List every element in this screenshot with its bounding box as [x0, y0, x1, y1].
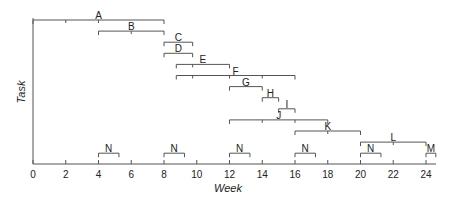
task-bar-n: N — [361, 143, 381, 157]
task-label: C — [175, 32, 182, 43]
task-bar-g: G — [230, 77, 263, 91]
x-tick-label: 14 — [257, 169, 269, 180]
task-bar-n: N — [295, 143, 315, 157]
axes: 024681012141618202224 Week Task — [15, 18, 436, 194]
task-label: H — [267, 88, 274, 99]
x-tick-label: 12 — [224, 169, 236, 180]
x-tick-label: 8 — [161, 169, 167, 180]
x-tick-label: 2 — [63, 169, 69, 180]
x-tick-label: 6 — [128, 169, 134, 180]
y-axis-title: Task — [15, 80, 27, 103]
x-ticks: 024681012141618202224 — [30, 160, 432, 180]
task-label: L — [390, 132, 396, 143]
task-label: N — [105, 143, 112, 154]
task-label: B — [128, 21, 135, 32]
task-label: N — [367, 143, 374, 154]
task-label: F — [233, 66, 239, 77]
task-bar-n: N — [99, 143, 119, 157]
task-bar-h: H — [262, 88, 278, 102]
task-bar-e: E — [176, 54, 229, 68]
task-bar-m: M — [426, 143, 436, 157]
task-label: K — [324, 121, 331, 132]
task-bar-f: F — [176, 66, 295, 80]
x-tick-label: 20 — [355, 169, 367, 180]
task-bar-n: N — [164, 143, 184, 157]
task-bar-j: J — [230, 110, 328, 124]
x-tick-label: 18 — [322, 169, 334, 180]
task-label: E — [200, 54, 207, 65]
x-tick-label: 16 — [289, 169, 301, 180]
task-label: N — [302, 143, 309, 154]
task-label: N — [171, 143, 178, 154]
task-bar-n: N — [230, 143, 250, 157]
x-tick-label: 24 — [420, 169, 432, 180]
task-label: D — [175, 43, 182, 54]
task-label: N — [236, 143, 243, 154]
task-bars: ABCDEFGHIJKLNNNNNM — [33, 10, 436, 157]
task-bar-k: K — [295, 121, 361, 135]
task-label: I — [285, 99, 288, 110]
task-label: G — [242, 77, 250, 88]
task-label: A — [95, 10, 102, 21]
x-tick-label: 0 — [30, 169, 36, 180]
task-label: M — [427, 143, 435, 154]
task-label: J — [276, 110, 281, 121]
task-bar-a: A — [33, 10, 164, 24]
task-bar-b: B — [99, 21, 165, 35]
x-tick-label: 22 — [388, 169, 400, 180]
gantt-chart: 024681012141618202224 Week Task ABCDEFGH… — [0, 0, 455, 204]
x-axis-title: Week — [214, 182, 242, 194]
x-tick-label: 4 — [96, 169, 102, 180]
x-tick-label: 10 — [191, 169, 203, 180]
task-bar-d: D — [164, 43, 193, 57]
